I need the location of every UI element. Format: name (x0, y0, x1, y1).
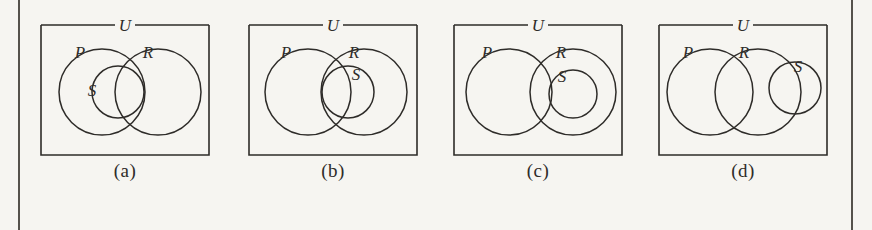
venn-diagram-a: UPRS (30, 0, 220, 160)
universe-rectangle-b (249, 25, 417, 155)
panel-row: UPRS (a) UPRS (b) UPRS (c) UPRS (d) (30, 0, 842, 230)
left-margin-rule (18, 0, 20, 230)
set-label-p-d: P (682, 43, 693, 62)
venn-diagram-d: UPRS (648, 0, 838, 160)
circle-r-b (321, 49, 407, 135)
universe-rectangle-a (41, 25, 209, 155)
set-label-s-b: S (352, 65, 361, 84)
panel-caption-c: (c) (443, 160, 633, 182)
circle-s-b (322, 66, 374, 118)
venn-panel-c[interactable]: UPRS (c) (443, 0, 633, 200)
panel-caption-b: (b) (238, 160, 428, 182)
panel-caption-d: (d) (648, 160, 838, 182)
universe-label-a: U (119, 16, 133, 35)
circle-p-a (59, 49, 145, 135)
set-label-r-d: R (738, 43, 750, 62)
venn-diagram-c: UPRS (443, 0, 633, 160)
set-label-s-a: S (88, 81, 97, 100)
circle-s-c (549, 70, 597, 118)
circle-r-d (715, 49, 801, 135)
venn-panel-b[interactable]: UPRS (b) (238, 0, 428, 200)
universe-label-d: U (737, 16, 751, 35)
set-label-r-b: R (348, 43, 360, 62)
set-label-p-a: P (74, 43, 85, 62)
set-label-p-b: P (280, 43, 291, 62)
venn-panel-a[interactable]: UPRS (a) (30, 0, 220, 200)
circle-s-a (92, 66, 144, 118)
circle-r-c (530, 49, 616, 135)
set-label-r-c: R (555, 43, 567, 62)
figure-root: UPRS (a) UPRS (b) UPRS (c) UPRS (d) (0, 0, 872, 230)
right-margin-rule (851, 0, 853, 230)
circle-p-c (466, 49, 552, 135)
circle-p-b (265, 49, 351, 135)
circle-r-a (115, 49, 201, 135)
set-label-r-a: R (142, 43, 154, 62)
set-label-s-d: S (794, 57, 803, 76)
venn-panel-d[interactable]: UPRS (d) (648, 0, 838, 200)
universe-label-b: U (327, 16, 341, 35)
set-label-p-c: P (481, 43, 492, 62)
set-label-s-c: S (558, 67, 567, 86)
panel-caption-a: (a) (30, 160, 220, 182)
venn-diagram-b: UPRS (238, 0, 428, 160)
universe-label-c: U (532, 16, 546, 35)
